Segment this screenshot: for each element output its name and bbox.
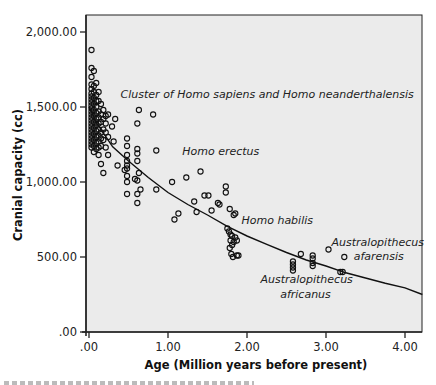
y-axis-title: Cranial capacity (cc) — [11, 109, 25, 241]
x-tick-label: 4.00 — [392, 340, 418, 354]
y-tick-label: 1,000.00 — [26, 175, 77, 189]
y-tick-label: 500.00 — [37, 250, 77, 264]
x-tick-label: 1.00 — [155, 340, 181, 354]
annotation-label: Australopithecus — [331, 236, 425, 249]
annotation-label: afarensis — [354, 250, 404, 263]
annotation-label: Homo habilis — [241, 214, 313, 227]
x-axis-ticks: .001.002.003.004.00 — [80, 332, 418, 354]
x-axis-title: Age (Million years before present) — [145, 358, 368, 372]
y-axis-ticks: .00500.001,000.001,500.002,000.00 — [26, 25, 86, 339]
x-tick-label: .00 — [80, 340, 98, 354]
annotation-label: Australopithecus — [259, 273, 353, 286]
annotation-label: Cluster of Homo sapiens and Homo neander… — [121, 88, 415, 101]
y-tick-label: 2,000.00 — [26, 25, 77, 39]
x-tick-label: 3.00 — [313, 340, 339, 354]
y-tick-label: .00 — [59, 325, 77, 339]
annotation-label: Homo erectus — [182, 145, 259, 158]
y-tick-label: 1,500.00 — [26, 100, 77, 114]
annotation-label: africanus — [280, 288, 331, 301]
figure-caption-cutoff — [0, 380, 436, 385]
x-tick-label: 2.00 — [234, 340, 260, 354]
scatter-chart: .00500.001,000.001,500.002,000.00 .001.0… — [0, 0, 436, 385]
